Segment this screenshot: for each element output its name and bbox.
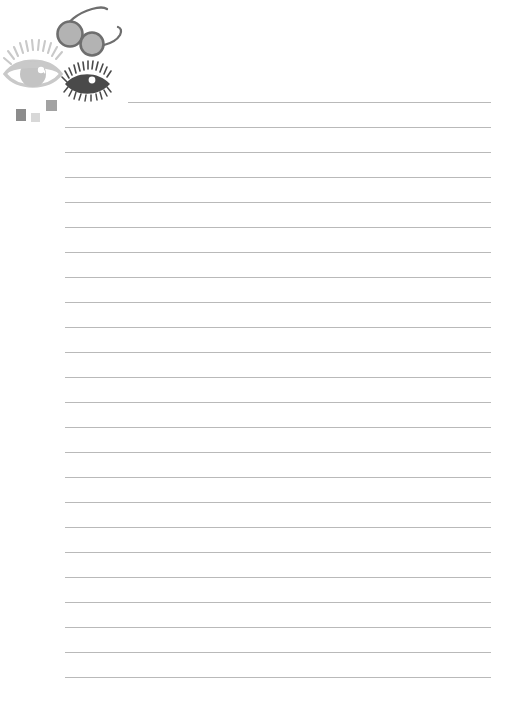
decor-square-mid [46,100,57,111]
rule-line [65,177,491,178]
spectacles-icon [58,8,122,56]
rule-line [65,627,491,628]
rule-line [65,302,491,303]
small-eye-icon [62,61,111,101]
rule-line [65,352,491,353]
notepaper-page [0,0,509,711]
rule-line [65,602,491,603]
rule-line [65,477,491,478]
rule-line [65,227,491,228]
rule-line [65,452,491,453]
rule-line [65,652,491,653]
rule-line [65,677,491,678]
rule-line [65,252,491,253]
rule-line [65,277,491,278]
rule-line [65,327,491,328]
rule-line [65,202,491,203]
rule-line [65,502,491,503]
decor-square-dark [16,109,26,121]
decor-square-light [31,113,40,122]
rule-line [128,102,491,103]
rule-line [65,427,491,428]
big-eye-icon [4,40,62,87]
rule-line [65,552,491,553]
rule-line [65,527,491,528]
rule-line [65,377,491,378]
rule-line [65,402,491,403]
rule-line [65,152,491,153]
rule-line [65,577,491,578]
